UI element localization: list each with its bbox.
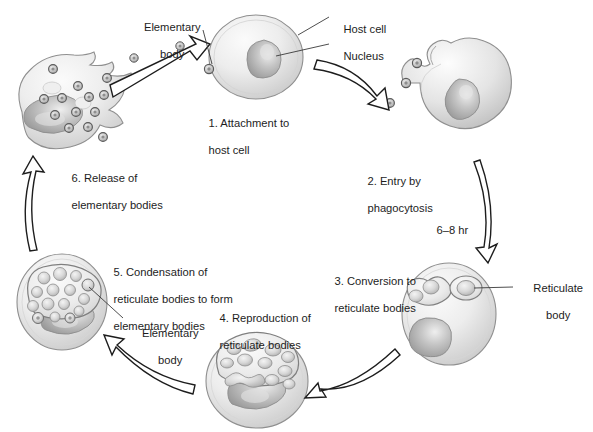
step-label-6: 6. Release of elementary bodies	[59, 159, 189, 226]
elementary-body	[71, 271, 82, 282]
callout-nucleus: Nucleus	[331, 37, 411, 77]
elementary-body	[54, 268, 67, 281]
callout-elementary-body-top: Elementary body	[124, 8, 208, 75]
step-label-1: 1. Attachment to host cell	[196, 104, 321, 171]
elementary-body	[32, 287, 43, 298]
elementary-body	[42, 298, 54, 310]
arrow-5-to-6	[23, 156, 44, 251]
callout-elementary-body-mid: Elementary body	[124, 314, 204, 381]
cell-step1-attachment	[204, 15, 303, 99]
elementary-body	[47, 284, 59, 296]
cell-step5-condensation	[17, 254, 107, 350]
diagram-canvas: Elementary body Host cell Nucleus 1. Att…	[0, 0, 593, 432]
arrow-2-to-3	[474, 160, 497, 263]
elementary-body	[38, 272, 50, 284]
callout-reticulate-body: Reticulate body	[514, 269, 590, 336]
elementary-body	[82, 279, 94, 291]
elementary-body	[79, 294, 90, 305]
elementary-body	[65, 285, 76, 296]
leader-host-cell	[298, 17, 329, 35]
cell-step6-release	[19, 52, 133, 149]
timing-label-6-8-hr: 6–8 hr	[424, 211, 474, 251]
reticulate-body	[457, 281, 475, 296]
step-label-3: 3. Conversion to reticulate bodies	[322, 262, 437, 329]
elementary-body	[59, 299, 70, 310]
elementary-body	[74, 306, 84, 316]
elementary-body	[50, 312, 60, 322]
elementary-body	[28, 301, 39, 312]
